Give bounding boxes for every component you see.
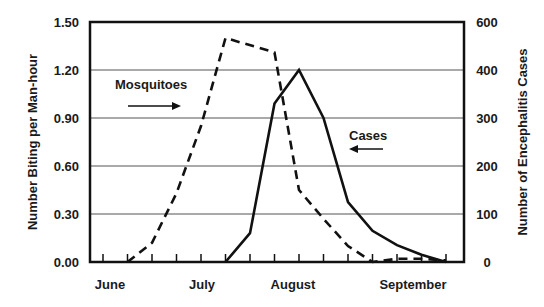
right-y-axis-title: Number of Encephalitis Cases [515, 48, 530, 235]
x-tick-label: June [95, 277, 125, 292]
cases-arrow-icon [349, 145, 383, 153]
left-y-tick-label: 0.90 [54, 111, 79, 126]
left-y-tick-label: 0.60 [54, 159, 79, 174]
mosquitoes-annotation: Mosquitoes [115, 77, 187, 92]
chart-canvas: 0.000.300.600.901.201.50 010020030040060… [0, 0, 544, 307]
right-y-tick-label: 600 [476, 15, 498, 30]
right-y-axis-tick-labels: 0100200300400600 [476, 15, 498, 270]
right-y-tick-label: 200 [476, 159, 498, 174]
x-tick-label: July [189, 277, 216, 292]
x-tick-label: September [379, 277, 446, 292]
left-y-tick-label: 0.30 [54, 207, 79, 222]
x-tick-label: August [271, 277, 316, 292]
left-y-axis-tick-labels: 0.000.300.600.901.201.50 [54, 15, 79, 270]
cases-annotation: Cases [349, 128, 387, 143]
left-y-tick-label: 1.50 [54, 15, 79, 30]
right-y-tick-label: 400 [476, 63, 498, 78]
series-lines [128, 38, 447, 262]
x-axis-tick-labels: JuneJulyAugustSeptember [95, 277, 447, 292]
plot-frame [90, 22, 464, 262]
dual-axis-line-chart: 0.000.300.600.901.201.50 010020030040060… [0, 0, 544, 307]
left-y-axis-title: Number Biting per Man-hour [25, 54, 40, 230]
left-y-tick-label: 0.00 [54, 255, 79, 270]
mosquitoes-series-line [128, 38, 447, 262]
mosquitoes-arrow-icon [128, 102, 181, 110]
right-y-tick-label: 0 [483, 255, 490, 270]
right-y-tick-label: 100 [476, 207, 498, 222]
left-y-tick-label: 1.20 [54, 63, 79, 78]
right-y-tick-label: 300 [476, 111, 498, 126]
